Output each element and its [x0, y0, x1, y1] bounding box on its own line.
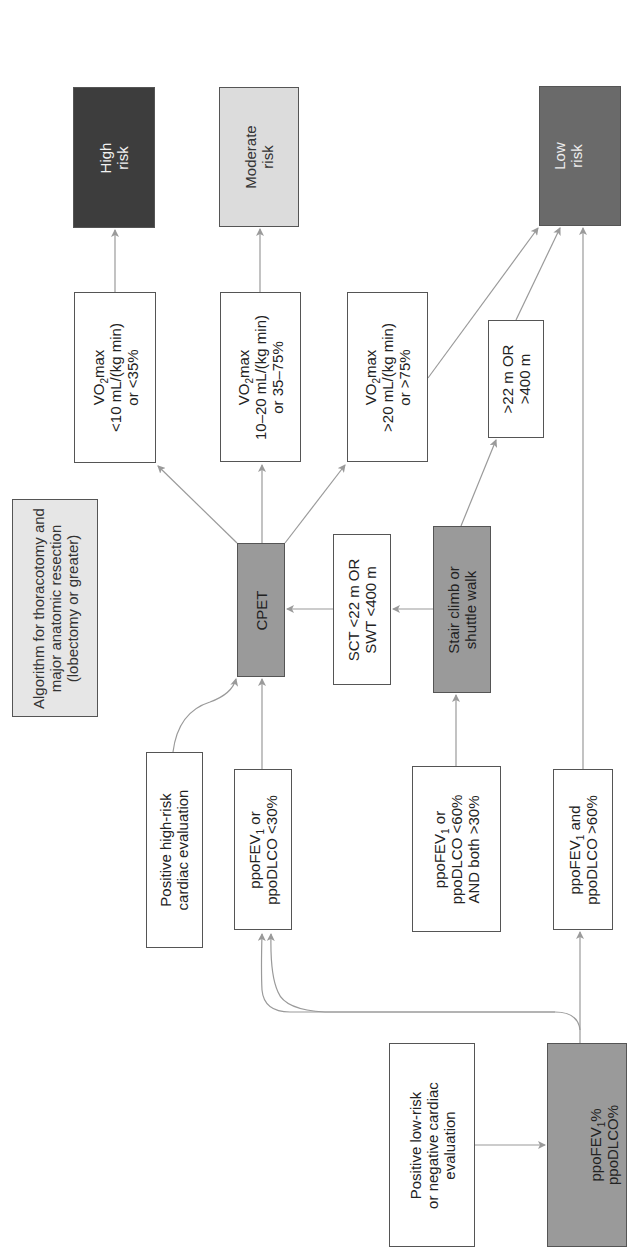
- node-label: or 35–75%: [269, 314, 286, 439]
- low-risk-cardiac-node: Positive low-riskor negative cardiaceval…: [389, 1043, 475, 1247]
- node-label: ppoDLCO%: [604, 1105, 621, 1185]
- vo2-high-node: VO2max>20 mL/(kg min)or >75%: [347, 292, 428, 462]
- title-line: Algorithm for thoracotomy and: [30, 508, 47, 709]
- node-label: ppoDLCO <30%: [263, 795, 280, 905]
- node-label: shuttle walk: [462, 566, 479, 654]
- node-label: cardiac evaluation: [175, 790, 192, 911]
- node-label: <10 mL/(kg min): [107, 323, 124, 432]
- node-label: Positive high-risk: [158, 790, 175, 911]
- node-label: Low: [551, 142, 568, 170]
- node-label: >20 mL/(kg min): [379, 323, 396, 432]
- ppo-lt30-node: ppoFEV1 orppoDLCO <30%: [234, 769, 292, 930]
- node-label: >22 m OR: [499, 345, 516, 414]
- node-label: CPET: [252, 590, 269, 630]
- node-label: High: [97, 142, 114, 173]
- title-line: major anatomic resection: [47, 508, 64, 709]
- node-label: VO2max: [90, 323, 107, 432]
- moderate-risk-node: Moderaterisk: [219, 87, 299, 227]
- node-label: ppoDLCO <60%: [448, 794, 465, 904]
- node-label: Positive low-risk: [407, 1082, 424, 1209]
- node-label: ppoFEV1%: [587, 1105, 604, 1185]
- vo2-mid-node: VO2max10–20 mL/(kg min)or 35–75%: [220, 292, 301, 462]
- sct-pass-node: >22 m OR>400 m: [488, 320, 544, 438]
- node-label: risk: [259, 125, 276, 188]
- node-label: SWT <400 m: [362, 558, 379, 661]
- node-label: ppoDLCO >60%: [583, 795, 600, 905]
- node-label: Moderate: [242, 125, 259, 188]
- low-risk-node: Lowrisk: [539, 86, 621, 226]
- node-label: AND both >30%: [465, 794, 482, 904]
- cpet-node: CPET: [237, 543, 285, 677]
- node-label: ppoFEV1 or: [246, 795, 263, 905]
- node-label: SCT <22 m OR: [345, 558, 362, 661]
- ppo-gt60-node: ppoFEV1 andppoDLCO >60%: [553, 769, 613, 930]
- node-label: Stair climb or: [445, 566, 462, 654]
- high-risk-node: Highrisk: [73, 87, 155, 228]
- start-node: ppoFEV1%ppoDLCO%: [547, 1043, 627, 1247]
- high-risk-cardiac-node: Positive high-riskcardiac evaluation: [146, 752, 203, 948]
- node-label: or >75%: [396, 323, 413, 432]
- node-label: VO2max: [362, 323, 379, 432]
- node-label: evaluation: [441, 1082, 458, 1209]
- node-label: ppoFEV1 or: [431, 794, 448, 904]
- ppo-30-60-node: ppoFEV1 orppoDLCO <60%AND both >30%: [412, 766, 501, 932]
- node-label: or negative cardiac: [424, 1082, 441, 1209]
- title-line: (lobectomy or greater): [64, 508, 81, 709]
- sct-fail-node: SCT <22 m ORSWT <400 m: [333, 534, 391, 685]
- node-label: >400 m: [516, 345, 533, 414]
- node-label: risk: [568, 142, 585, 170]
- vo2-low-node: VO2max<10 mL/(kg min)or <35%: [74, 292, 156, 463]
- node-label: risk: [114, 142, 131, 173]
- node-label: or <35%: [124, 323, 141, 432]
- stair-climb-node: Stair climb orshuttle walk: [433, 526, 491, 693]
- node-label: ppoFEV1 and: [566, 795, 583, 905]
- node-label: VO2max: [235, 314, 252, 439]
- algorithm-title: Algorithm for thoracotomy andmajor anato…: [12, 499, 98, 717]
- node-label: 10–20 mL/(kg min): [252, 314, 269, 439]
